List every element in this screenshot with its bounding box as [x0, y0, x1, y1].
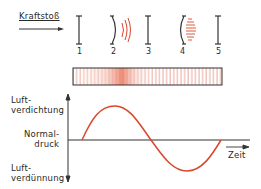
plate-1: [76, 16, 82, 44]
air-column-tube: [73, 68, 222, 85]
normal-pressure-label: Normal- druck: [24, 129, 59, 149]
plate-5: [215, 16, 221, 44]
time-arrow: [226, 145, 249, 149]
impulse-arrow: [19, 27, 64, 31]
plate-number-4: 4: [180, 47, 185, 56]
compression-wave-icon: [122, 18, 131, 42]
plate-number-1: 1: [77, 47, 82, 56]
plate-number-5: 5: [216, 47, 221, 56]
plate-number-2: 2: [111, 47, 116, 56]
plate-2: [110, 16, 116, 44]
pressure-axis: [66, 94, 70, 182]
compression-label: Luft- verdichtung: [11, 95, 64, 115]
plate-number-3: 3: [146, 47, 151, 56]
pressure-wave: [82, 106, 221, 171]
plate-3: [145, 16, 151, 44]
rarefaction-icon: [186, 19, 196, 40]
rarefaction-label: Luft- verdünnung: [11, 163, 64, 183]
plate-4: [181, 16, 187, 44]
time-label: Zeit: [228, 150, 246, 160]
